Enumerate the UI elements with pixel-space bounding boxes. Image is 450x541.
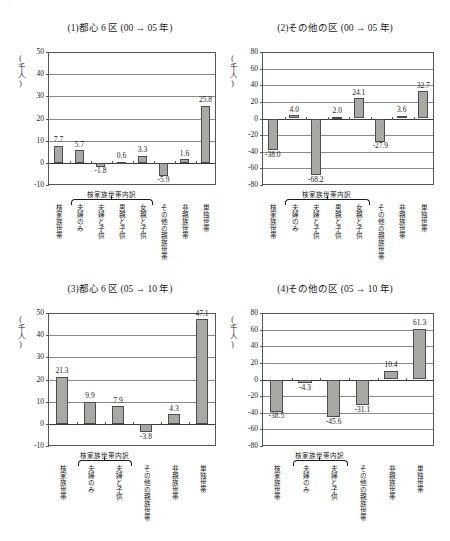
plot-frame	[262, 52, 434, 185]
y-tick-mark	[46, 313, 49, 314]
bar-value-label: -31.1	[342, 406, 382, 415]
bar	[354, 98, 364, 118]
category-group-brace	[71, 199, 154, 205]
x-tick-mark	[406, 378, 407, 381]
y-tick-label: 50	[24, 309, 44, 317]
y-axis-unit-label: (千人)	[16, 315, 24, 349]
scan-artifact-text: .	[8, 0, 442, 9]
chart-panel-3: (3)都心 6 区 (05 → 10 年) (千人)50403020100-10…	[14, 283, 226, 533]
x-category-label: 非親族世帯	[170, 465, 177, 500]
x-category-label: 単独世帯	[420, 204, 427, 232]
y-tick-label: -40	[238, 409, 258, 417]
x-category-label: 夫婦のみ	[86, 465, 93, 493]
category-group-brace-stem	[104, 457, 105, 460]
bar-value-label: 3.3	[123, 146, 163, 155]
gridline	[263, 135, 433, 136]
y-tick-mark	[260, 363, 263, 364]
y-tick-label: 0	[238, 376, 258, 384]
x-category-label: 核家族世帯	[58, 465, 65, 500]
y-tick-mark	[46, 185, 49, 186]
x-tick-mark	[175, 161, 176, 164]
y-tick-mark	[260, 429, 263, 430]
y-tick-mark	[260, 396, 263, 397]
x-category-label: 男親と子供	[334, 204, 341, 239]
x-tick-mark	[133, 161, 134, 164]
chart-title-1: (1)都心 6 区 (00 → 05 年)	[14, 22, 226, 34]
y-tick-mark	[46, 163, 49, 164]
y-tick-label: 40	[24, 70, 44, 78]
y-tick-mark	[46, 52, 49, 53]
y-axis-unit-label: (千人)	[16, 54, 24, 88]
gridline	[49, 380, 215, 381]
y-tick-label: 30	[24, 92, 44, 100]
y-tick-label: -10	[24, 442, 44, 450]
bar-value-label: 10.4	[371, 361, 411, 370]
y-tick-label: 80	[238, 309, 258, 317]
bar-value-label: -3.8	[126, 433, 166, 442]
gridline	[49, 74, 215, 75]
bar-value-label: 3.6	[382, 106, 422, 115]
bar	[159, 163, 169, 176]
zero-axis-line	[49, 163, 215, 164]
x-category-label: 女親と子供	[355, 204, 362, 239]
x-tick-mark	[320, 378, 321, 381]
bar	[140, 424, 153, 432]
y-tick-label: 60	[238, 326, 258, 334]
x-tick-mark	[306, 117, 307, 120]
y-tick-label: 10	[24, 398, 44, 406]
bar	[332, 117, 342, 119]
bar-value-label: 4.0	[274, 106, 314, 115]
bar-value-label: -38.0	[253, 151, 293, 160]
bar	[311, 119, 321, 176]
y-tick-label: 60	[238, 65, 258, 73]
y-tick-mark	[46, 119, 49, 120]
y-tick-label: 20	[24, 115, 44, 123]
y-tick-mark	[46, 402, 49, 403]
bar-value-label: 24.1	[339, 89, 379, 98]
x-tick-mark	[161, 422, 162, 425]
x-category-label: 単独世帯	[198, 465, 205, 493]
bar	[117, 162, 127, 164]
y-tick-label: 40	[238, 342, 258, 350]
x-category-label: 非親族世帯	[387, 465, 394, 500]
x-category-label: 夫婦のみ	[291, 204, 298, 232]
y-tick-mark	[46, 96, 49, 97]
category-group-brace-stem	[111, 196, 112, 199]
x-tick-mark	[133, 422, 134, 425]
x-tick-mark	[112, 161, 113, 164]
zero-axis-line	[49, 424, 215, 425]
bar	[84, 402, 97, 424]
y-tick-mark	[260, 346, 263, 347]
x-category-label: 夫婦のみ	[76, 204, 83, 232]
gridline	[263, 69, 433, 70]
gridline	[263, 429, 433, 430]
x-category-label: 核家族世帯	[55, 204, 62, 239]
chart-panel-4: (4)その他の区 (05 → 10 年) (千人)806040200-20-40…	[226, 283, 444, 533]
y-tick-mark	[260, 85, 263, 86]
y-tick-label: -80	[238, 442, 258, 450]
bar	[327, 380, 340, 418]
chart-title-2: (2)その他の区 (00 → 05 年)	[226, 22, 444, 34]
y-tick-label: 20	[238, 98, 258, 106]
x-category-label: 非親族世帯	[181, 204, 188, 239]
x-tick-mark	[292, 378, 293, 381]
figure-page: . (1)都心 6 区 (00 → 05 年) (千人)50403020100-…	[0, 0, 450, 541]
bar-value-label: -68.2	[296, 176, 336, 185]
x-tick-mark	[154, 161, 155, 164]
y-tick-mark	[46, 335, 49, 336]
x-tick-mark	[378, 378, 379, 381]
bar-value-label: 47.1	[182, 310, 222, 319]
y-tick-label: 80	[238, 48, 258, 56]
y-tick-mark	[46, 74, 49, 75]
y-tick-label: 0	[24, 159, 44, 167]
x-tick-mark	[392, 117, 393, 120]
y-tick-label: 0	[24, 420, 44, 428]
x-tick-mark	[77, 422, 78, 425]
x-category-label: 夫婦のみ	[301, 465, 308, 493]
bar	[356, 380, 369, 406]
y-tick-label: 40	[24, 331, 44, 339]
category-group-brace-stem	[319, 457, 320, 460]
y-tick-label: 50	[24, 48, 44, 56]
bar	[56, 377, 69, 424]
bar	[268, 119, 278, 151]
